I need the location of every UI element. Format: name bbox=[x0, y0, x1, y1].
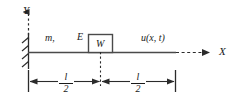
weight-block-label: W bbox=[96, 39, 104, 49]
schematic-canvas bbox=[0, 0, 238, 102]
mass-density-label: m, bbox=[45, 33, 55, 43]
dimension-left-numerator: l bbox=[58, 72, 74, 83]
displacement-label: u(x, t) bbox=[141, 33, 165, 43]
y-axis-label: Y bbox=[23, 5, 29, 16]
wall-hatch bbox=[22, 54, 29, 60]
youngs-modulus-label: E bbox=[77, 32, 83, 42]
dimension-right-denominator: 2 bbox=[130, 84, 146, 95]
dimension-right-value: l 2 bbox=[130, 72, 146, 94]
dimension-right-numerator: l bbox=[130, 72, 146, 83]
dimension-left-denominator: 2 bbox=[58, 84, 74, 95]
fixed-wall-support bbox=[22, 33, 29, 69]
wall-hatch bbox=[22, 46, 29, 52]
dimension-left-value: l 2 bbox=[58, 72, 74, 94]
x-axis-label: X bbox=[219, 46, 226, 57]
wall-hatch bbox=[22, 38, 29, 44]
beam-schematic-figure: Y X m, E W u(x, t) l 2 l 2 bbox=[0, 0, 238, 102]
wall-hatch bbox=[22, 62, 29, 68]
